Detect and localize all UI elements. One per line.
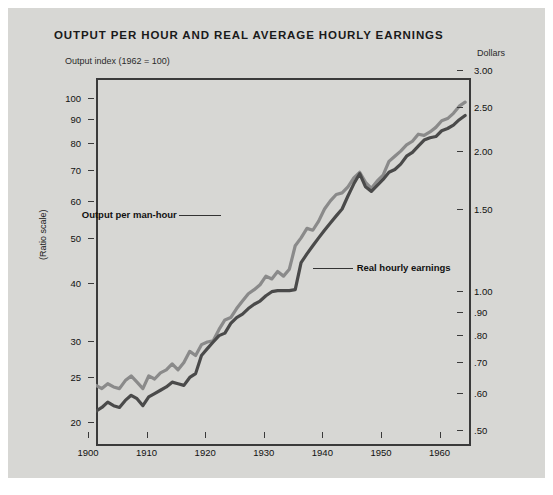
x-axis-tick-label: 1930 bbox=[244, 447, 284, 458]
y2-axis-tick-label: .90 bbox=[474, 306, 518, 317]
x-axis-tick-mark bbox=[381, 432, 382, 438]
y-axis-tick-label: 90 bbox=[41, 114, 81, 125]
x-axis-tick-mark bbox=[147, 432, 148, 438]
y2-axis-tick-mark bbox=[457, 70, 463, 71]
y-axis-tick-mark bbox=[88, 143, 94, 144]
x-axis-tick-mark bbox=[322, 432, 323, 438]
series-line-output-per-man-hour bbox=[96, 102, 465, 388]
y2-axis-tick-mark bbox=[457, 107, 463, 108]
y2-axis-tick-label: 3.00 bbox=[474, 65, 518, 76]
y2-axis-tick-label: .60 bbox=[474, 388, 518, 399]
x-axis-tick-label: 1920 bbox=[185, 447, 225, 458]
chart-card: OUTPUT PER HOUR AND REAL AVERAGE HOURLY … bbox=[8, 8, 545, 478]
y2-axis-tick-label: 2.00 bbox=[474, 146, 518, 157]
y-axis-tick-mark bbox=[88, 98, 94, 99]
y-axis-tick-mark bbox=[88, 422, 94, 423]
y2-axis-tick-mark bbox=[457, 430, 463, 431]
y-axis-tick-label: 80 bbox=[41, 138, 81, 149]
annotation-output-per-man-hour: Output per man-hour bbox=[82, 209, 177, 220]
y2-axis-tick-label: .50 bbox=[474, 424, 518, 435]
y2-axis-tick-mark bbox=[457, 151, 463, 152]
y-axis-tick-label: 50 bbox=[41, 232, 81, 243]
y-axis-tick-mark bbox=[88, 341, 94, 342]
y-axis-tick-label: 100 bbox=[41, 93, 81, 104]
y2-axis-tick-mark bbox=[457, 291, 463, 292]
y2-axis-tick-label: 2.50 bbox=[474, 101, 518, 112]
y-axis-tick-mark bbox=[88, 283, 94, 284]
annotation-real-hourly-earnings: Real hourly earnings bbox=[357, 262, 451, 273]
y-axis-tick-label: 40 bbox=[41, 277, 81, 288]
x-axis-tick-label: 1910 bbox=[127, 447, 167, 458]
y-axis-tick-label: 20 bbox=[41, 417, 81, 428]
annotation-output-per-man-hour-leader-line bbox=[179, 215, 221, 216]
y2-axis-tick-label: .80 bbox=[474, 330, 518, 341]
x-axis-tick-mark bbox=[264, 432, 265, 438]
x-axis-tick-mark bbox=[88, 432, 89, 438]
y-axis-tick-mark bbox=[88, 377, 94, 378]
y2-axis-tick-mark bbox=[457, 312, 463, 313]
x-axis-tick-mark bbox=[205, 432, 206, 438]
y2-axis-tick-mark bbox=[457, 209, 463, 210]
y-axis-tick-mark bbox=[88, 170, 94, 171]
x-axis-tick-label: 1960 bbox=[420, 447, 460, 458]
right-axis-unit-label: Dollars bbox=[477, 48, 505, 58]
left-axis-unit-label: Output index (1962 = 100) bbox=[65, 56, 170, 66]
y2-axis-tick-mark bbox=[457, 393, 463, 394]
y2-axis-tick-label: .70 bbox=[474, 357, 518, 368]
y-axis-tick-mark bbox=[88, 119, 94, 120]
y-axis-tick-label: 70 bbox=[41, 164, 81, 175]
y-axis-tick-mark bbox=[88, 201, 94, 202]
y2-axis-tick-mark bbox=[457, 335, 463, 336]
y2-axis-tick-label: 1.00 bbox=[474, 285, 518, 296]
x-axis-tick-label: 1900 bbox=[68, 447, 108, 458]
y2-axis-tick-label: 1.50 bbox=[474, 204, 518, 215]
y-axis-tick-label: 60 bbox=[41, 196, 81, 207]
y-axis-tick-label: 30 bbox=[41, 335, 81, 346]
x-axis-tick-mark bbox=[440, 432, 441, 438]
x-axis-tick-label: 1950 bbox=[361, 447, 401, 458]
x-axis-tick-label: 1940 bbox=[302, 447, 342, 458]
y-axis-tick-mark bbox=[88, 238, 94, 239]
y2-axis-tick-mark bbox=[457, 362, 463, 363]
y-axis-tick-label: 25 bbox=[41, 372, 81, 383]
chart-title: OUTPUT PER HOUR AND REAL AVERAGE HOURLY … bbox=[54, 29, 444, 41]
annotation-real-hourly-earnings-leader-line bbox=[313, 268, 353, 269]
